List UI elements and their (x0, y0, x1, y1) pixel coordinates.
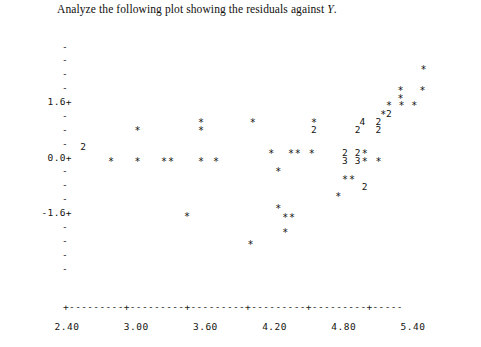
y-axis-minor-tick: - (62, 222, 68, 231)
data-point-marker: * (275, 167, 281, 177)
data-point-marker: * (399, 101, 405, 111)
data-point-marker: * (349, 175, 355, 185)
y-axis-minor-tick: - (62, 139, 68, 148)
x-axis-tick-label: 3.60 (188, 322, 222, 331)
data-point-marker: * (135, 126, 141, 136)
data-point-count-marker: 2 (80, 142, 86, 152)
y-hat-symbol: ˆY (327, 3, 334, 15)
x-axis-tick-label: 5.40 (396, 322, 430, 331)
y-axis-minor-tick: - (62, 264, 68, 273)
data-point-marker: * (288, 149, 294, 159)
data-point-marker: * (250, 118, 256, 128)
y-axis-minor-tick: - (62, 125, 68, 134)
x-axis-tick-label: 4.80 (327, 322, 361, 331)
data-point-marker: * (268, 149, 274, 159)
y-axis-minor-tick: - (62, 111, 68, 120)
data-point-marker: * (376, 157, 382, 167)
title-text: Analyze the following plot showing the r… (57, 3, 327, 15)
residual-plot: Analyze the following plot showing the r… (0, 0, 481, 347)
data-point-count-marker: 2 (386, 109, 392, 119)
x-axis-line: +---------+---------+---------+---------… (63, 302, 403, 311)
y-axis-minor-tick: - (62, 194, 68, 203)
data-point-count-marker: 2 (355, 125, 361, 135)
y-axis-minor-tick: - (62, 42, 68, 51)
y-axis-tick-label: -1.6+ (10, 208, 72, 217)
data-point-marker: * (411, 101, 417, 111)
data-point-count-marker: 2 (311, 125, 317, 135)
data-point-marker: * (309, 149, 315, 159)
data-point-marker: * (184, 212, 190, 222)
data-point-marker: * (248, 240, 254, 250)
data-point-marker: * (198, 157, 204, 167)
title-period: . (334, 3, 337, 15)
data-point-marker: * (295, 149, 301, 159)
data-point-count-marker: 2 (376, 125, 382, 135)
y-axis-minor-tick: - (62, 250, 68, 259)
y-axis-minor-tick: - (62, 180, 68, 189)
y-axis-tick-label: 0.0+ (10, 153, 72, 162)
data-point-marker: * (342, 175, 348, 185)
data-point-count-marker: 2 (362, 182, 368, 192)
page-title: Analyze the following plot showing the r… (57, 3, 337, 15)
x-axis-tick-label: 2.40 (50, 322, 84, 331)
data-point-count-marker: 3 (342, 156, 348, 166)
data-point-marker: * (168, 157, 174, 167)
data-point-marker: * (419, 86, 425, 96)
data-point-count-marker: 3 (355, 156, 361, 166)
data-point-marker: * (421, 65, 427, 75)
y-axis-minor-tick: - (62, 69, 68, 78)
data-point-marker: * (282, 213, 288, 223)
x-axis-tick-label: 3.00 (119, 322, 153, 331)
data-point-marker: * (161, 157, 167, 167)
data-point-marker: * (135, 157, 141, 167)
data-point-marker: * (335, 192, 341, 202)
data-point-marker: * (275, 204, 281, 214)
data-point-marker: * (362, 157, 368, 167)
data-point-marker: * (213, 157, 219, 167)
y-axis-tick-label: 1.6+ (10, 97, 72, 106)
y-axis-minor-tick: - (62, 83, 68, 92)
x-axis-tick-label: 4.20 (258, 322, 292, 331)
data-point-marker: * (108, 157, 114, 167)
y-axis-minor-tick: - (62, 166, 68, 175)
y-axis-minor-tick: - (62, 55, 68, 64)
data-point-marker: * (282, 228, 288, 238)
hat-accent: ˆ (329, 0, 332, 7)
data-point-marker: * (198, 126, 204, 136)
data-point-marker: * (289, 213, 295, 223)
y-axis-minor-tick: - (62, 236, 68, 245)
